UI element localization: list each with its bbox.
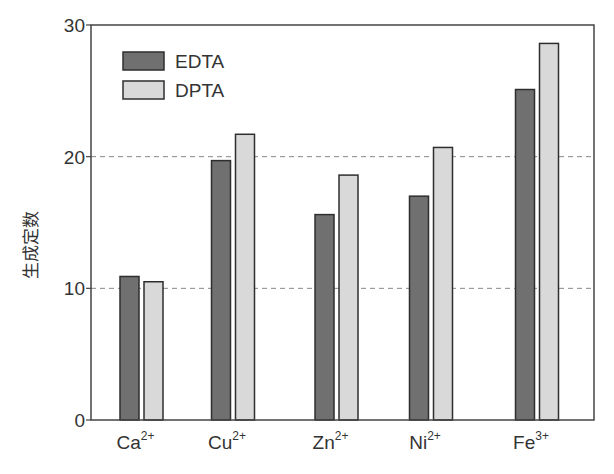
bar-dpta-ni [434, 147, 453, 420]
legend-swatch-edta [123, 52, 164, 70]
bar-edta-ca [120, 276, 139, 420]
bar-edta-ni [410, 196, 429, 420]
legend-label-edta: EDTA [175, 51, 225, 72]
x-category-label: Cu2+ [208, 429, 246, 453]
x-category-label: Fe3+ [513, 429, 549, 453]
bar-dpta-fe [540, 43, 559, 420]
x-axis-labels: Ca2+Cu2+Zn2+Ni2+Fe3+ [117, 429, 549, 453]
legend-label-dpta: DPTA [175, 80, 225, 101]
y-tick-label: 30 [64, 15, 85, 36]
bar-edta-cu [212, 161, 231, 420]
x-category-label: Zn2+ [313, 429, 349, 453]
bar-edta-fe [516, 90, 535, 420]
legend-swatch-dpta [123, 81, 164, 99]
y-tick-label: 0 [74, 410, 85, 431]
y-axis-ticks: 0102030 [64, 15, 91, 431]
bar-dpta-ca [144, 282, 163, 420]
bar-chart: 0102030 Ca2+Cu2+Zn2+Ni2+Fe3+ EDTADPTA 生成… [0, 0, 614, 474]
bar-dpta-cu [236, 134, 255, 420]
legend: EDTADPTA [123, 51, 225, 101]
x-category-label: Ni2+ [409, 429, 441, 453]
bar-dpta-zn [339, 175, 358, 420]
y-tick-label: 10 [64, 278, 85, 299]
y-tick-label: 20 [64, 147, 85, 168]
bar-edta-zn [315, 215, 334, 420]
x-category-label: Ca2+ [117, 429, 155, 453]
y-axis-label: 生成定数 [21, 211, 41, 279]
